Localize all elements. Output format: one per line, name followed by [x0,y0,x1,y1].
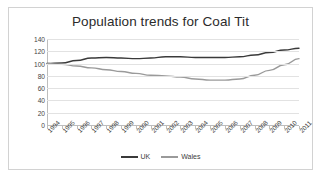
y-tick-label: 60 [11,85,45,92]
y-tick-label: 100 [11,60,45,67]
plot-area [47,39,299,125]
legend-swatch-icon [121,156,138,158]
chart-title: Population trends for Coal Tit [9,14,312,29]
gridline [47,39,299,40]
x-tick-label: 2011 [298,119,313,134]
series-line-wales [47,59,299,81]
y-tick-label: 20 [11,109,45,116]
gridline [47,64,299,65]
gridline [47,100,299,101]
chart-legend: UKWales [9,153,312,160]
y-tick-label: 0 [11,122,45,129]
gridline [47,113,299,114]
legend-label: UK [141,153,151,160]
y-tick-label: 120 [11,48,45,55]
gridline [47,76,299,77]
y-axis-labels: 020406080100120140 [9,39,45,125]
gridline [47,88,299,89]
gridline [47,51,299,52]
y-tick-label: 40 [11,97,45,104]
legend-label: Wales [181,153,200,160]
legend-item-wales[interactable]: Wales [161,153,200,160]
legend-item-uk[interactable]: UK [121,153,151,160]
y-tick-label: 140 [11,36,45,43]
y-tick-label: 80 [11,72,45,79]
chart-container: Population trends for Coal Tit 020406080… [8,7,313,170]
legend-swatch-icon [161,156,178,158]
